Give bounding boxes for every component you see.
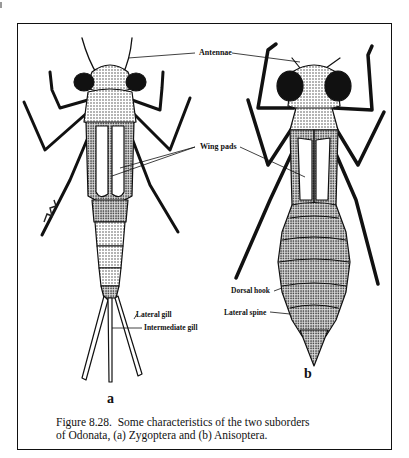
panel-label-a: a xyxy=(107,392,114,406)
caption-line-1: Figure 8.28. Some characteristics of the… xyxy=(56,416,376,429)
figure-illustration xyxy=(0,0,409,458)
figure-caption: Figure 8.28. Some characteristics of the… xyxy=(56,416,376,442)
label-dorsal-hook: Dorsal hook xyxy=(231,287,270,295)
label-intermediate-gill: Intermediate gill xyxy=(144,324,198,332)
caption-line-2: of Odonata, (a) Zygoptera and (b) Anisop… xyxy=(56,429,376,442)
label-lateral-gill: Lateral gill xyxy=(136,311,172,319)
panel-label-b: b xyxy=(304,367,312,381)
label-wing-pads: Wing pads xyxy=(200,143,237,151)
label-lateral-spine: Lateral spine xyxy=(224,309,266,317)
label-antennae: Antennae xyxy=(199,49,232,57)
anisoptera-nymph xyxy=(236,44,384,366)
